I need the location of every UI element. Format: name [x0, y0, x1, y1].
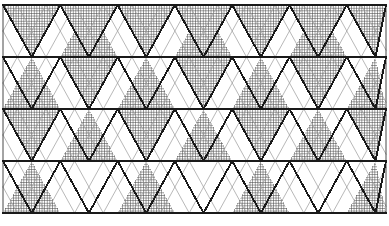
lattice-pattern-canvas: [0, 0, 389, 226]
pattern-figure: [0, 0, 389, 226]
